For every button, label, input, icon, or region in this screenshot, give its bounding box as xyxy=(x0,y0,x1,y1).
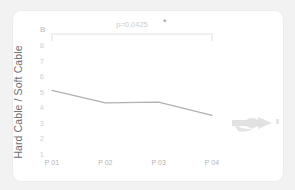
p-value-label: p=0.0425 xyxy=(116,21,148,29)
data-line-series xyxy=(52,90,212,115)
significance-star: * xyxy=(163,18,167,27)
screenshot-root: Hard Cable / Soft Cable B 87654321 P 01P… xyxy=(0,0,295,190)
arrow-pointer-glyph xyxy=(232,117,279,132)
significance-bracket xyxy=(52,34,212,41)
